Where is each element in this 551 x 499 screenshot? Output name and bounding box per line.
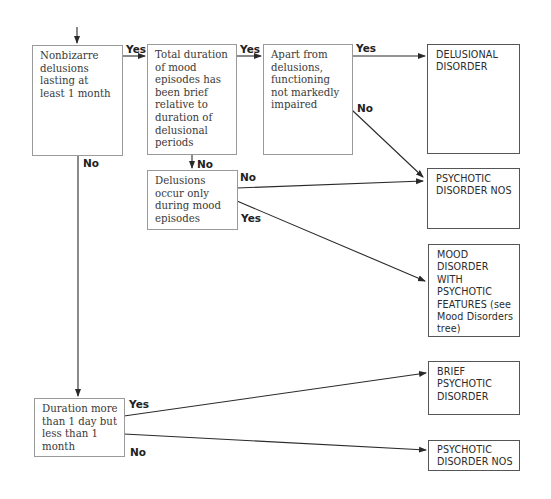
node-text: MOOD DISORDER WITH PSYCHOTIC FEATURES (s…: [437, 249, 513, 334]
edge-label-n8-n10: No: [130, 446, 146, 458]
decision-node-nonbizarre-delusions: Nonbizarre delusions lasting at least 1 …: [32, 45, 123, 156]
decision-node-delusions-during-mood: Delusions occur only during mood episode…: [147, 170, 238, 230]
node-text: PSYCHOTIC DISORDER NOS: [437, 444, 513, 467]
node-text: DELUSIONAL DISORDER: [436, 49, 498, 72]
node-text: Total duration of mood episodes has been…: [155, 49, 228, 148]
edge-n3-n6: [352, 110, 423, 177]
node-text: Duration more than 1 day but less than 1…: [42, 403, 118, 452]
edge-n8-n10: [124, 434, 426, 450]
edge-n8-n9: [124, 373, 426, 416]
node-text: Delusions occur only during mood episode…: [155, 175, 221, 224]
edge-label-n5-n6: No: [240, 171, 256, 183]
edge-label-n3-n4: Yes: [356, 42, 376, 54]
edge-n5-n7: [237, 201, 425, 281]
outcome-mood-disorder-psychotic: MOOD DISORDER WITH PSYCHOTIC FEATURES (s…: [428, 244, 520, 337]
node-text: Nonbizarre delusions lasting at least 1 …: [40, 50, 111, 99]
edge-label-n2-n3: Yes: [240, 43, 260, 55]
node-text: BRIEF PSYCHOTIC DISORDER: [437, 366, 492, 402]
edge-label-n2-n5: No: [197, 158, 213, 170]
decision-node-duration-1-day-1-month: Duration more than 1 day but less than 1…: [34, 398, 125, 457]
flowchart-canvas: Nonbizarre delusions lasting at least 1 …: [0, 0, 551, 499]
edge-label-n3-n6: No: [357, 102, 373, 114]
edge-label-n8-n9: Yes: [129, 398, 149, 410]
node-text: Apart from delusions, functioning not ma…: [271, 49, 339, 110]
edge-label-n1-n8: No: [83, 157, 99, 169]
outcome-delusional-disorder: DELUSIONAL DISORDER: [427, 44, 520, 154]
edge-n5-n6: [237, 181, 423, 188]
outcome-brief-psychotic-disorder: BRIEF PSYCHOTIC DISORDER: [428, 361, 520, 415]
outcome-psychotic-disorder-nos-upper: PSYCHOTIC DISORDER NOS: [427, 168, 520, 229]
edge-label-n1-n2: Yes: [126, 43, 146, 55]
edge-label-n5-n7: Yes: [241, 212, 261, 224]
outcome-psychotic-disorder-nos-lower: PSYCHOTIC DISORDER NOS: [428, 440, 520, 471]
decision-node-mood-episode-duration: Total duration of mood episodes has been…: [147, 44, 237, 155]
node-text: PSYCHOTIC DISORDER NOS: [436, 173, 512, 196]
decision-node-functioning-impaired: Apart from delusions, functioning not ma…: [263, 44, 353, 155]
